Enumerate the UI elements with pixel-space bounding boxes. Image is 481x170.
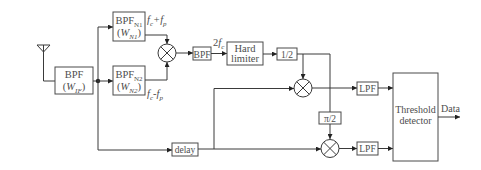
bpf-if-name-text: BPF <box>65 69 84 80</box>
paren-close: ) <box>137 81 141 93</box>
threshold-detector-block: Threshold detector <box>393 73 438 161</box>
bpf-n2-block: BPFN2 (WN2) <box>113 66 145 95</box>
delay-label: delay <box>175 145 196 155</box>
delay-block: delay <box>172 143 198 156</box>
operator: + <box>153 14 160 25</box>
bpf-2fc-label: BPF <box>194 50 211 60</box>
mixer-2-icon <box>294 79 312 97</box>
double-frequency-label: 2fc <box>213 37 225 51</box>
receiver-block-diagram: BPF (WIF) BPFN1 (WN1) BPFN2 (WN2) fc+fp … <box>0 0 481 170</box>
phase-shift-label: π/2 <box>324 114 336 124</box>
antenna-icon <box>37 45 55 81</box>
sum-frequency-label: fc+fp <box>147 14 167 28</box>
freq-sub: p <box>162 20 167 28</box>
bpf-n1-block: BPFN1 (WN1) <box>113 12 145 41</box>
frequency-divider-label: 1/2 <box>281 50 293 60</box>
lpf-q-label: LPF <box>359 144 375 154</box>
threshold-detector-line2: detector <box>399 115 432 126</box>
lpf-i-label: LPF <box>359 84 375 94</box>
diff-frequency-label: fc-fp <box>147 88 163 102</box>
arrow-to-mixer-1-bottom <box>145 62 167 80</box>
bpf-if-block: BPF (WIF) <box>55 67 93 95</box>
hard-limiter-block: Hard limiter <box>227 42 263 65</box>
bpf-n1-name-text: BPF <box>115 15 134 26</box>
mixer-3-icon <box>321 140 339 158</box>
paren-close: ) <box>137 27 141 39</box>
freq-sub: c <box>221 43 225 51</box>
arrow-to-mixer-1-top <box>145 35 167 44</box>
arrow-to-mixer-2-left <box>214 89 294 150</box>
hard-limiter-line2: limiter <box>231 53 259 64</box>
bpf-2fc-block: BPF <box>193 47 211 60</box>
bpf-n2-name-text: BPF <box>115 69 134 80</box>
phase-shift-block: π/2 <box>319 112 341 124</box>
mixer-1-icon <box>158 44 176 62</box>
threshold-detector-line1: Threshold <box>395 104 436 115</box>
paren-close: ) <box>82 81 86 93</box>
freq-sub: p <box>158 94 163 102</box>
bpf-if-name: BPF <box>65 69 84 80</box>
frequency-divider-block: 1/2 <box>277 48 297 60</box>
bandwidth-sub: N1 <box>128 33 137 41</box>
data-output-label: Data <box>441 103 460 114</box>
lpf-q-block: LPF <box>357 142 378 155</box>
lpf-i-block: LPF <box>357 82 378 95</box>
